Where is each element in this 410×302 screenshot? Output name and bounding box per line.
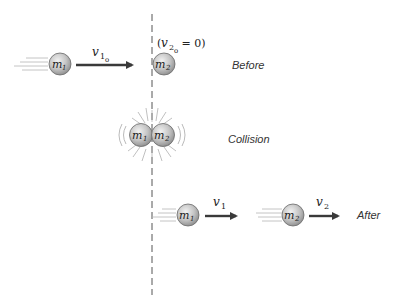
ball-m2-before: m 2 <box>153 53 175 75</box>
mass-subscript: 1 <box>62 64 66 72</box>
initial-condition-label: ( v 2 o = 0) <box>157 36 206 55</box>
ball-m1-collision: m 1 <box>130 124 153 147</box>
mass-subscript: 1 <box>190 215 194 223</box>
mass-subscript: 2 <box>165 64 171 72</box>
svg-text:= 0): = 0) <box>178 37 206 50</box>
svg-text:v: v <box>213 195 220 209</box>
mass-label: m <box>154 129 164 142</box>
stage-collision: m 1 m 2 Collision <box>119 108 270 162</box>
mass-subscript: 2 <box>164 135 170 143</box>
velocity-label-v1o: v 1 o <box>92 45 109 64</box>
mass-label: m <box>179 209 189 222</box>
motion-lines-icon <box>14 58 48 70</box>
svg-text:o: o <box>105 56 109 64</box>
mass-label: m <box>52 58 62 71</box>
ball-m2-collision: m 2 <box>152 124 175 147</box>
motion-lines-icon <box>152 209 176 221</box>
svg-text:1: 1 <box>221 202 226 211</box>
stage-after: m 1 v 1 m 2 v 2 After <box>152 195 382 226</box>
collision-diagram: m 1 v 1 o m 2 ( v 2 o = 0) Before <box>0 0 410 302</box>
velocity-label-v2: v 2 <box>316 195 329 211</box>
velocity-label-v1: v 1 <box>213 195 226 211</box>
mass-label: m <box>155 58 165 71</box>
stage-before: m 1 v 1 o m 2 ( v 2 o = 0) Before <box>14 36 264 75</box>
ball-m1-before: m 1 <box>49 53 71 75</box>
svg-text:2: 2 <box>324 202 329 211</box>
motion-lines-icon <box>256 209 282 221</box>
svg-text:v: v <box>316 195 323 209</box>
mass-subscript: 1 <box>143 135 147 143</box>
mass-label: m <box>284 209 294 222</box>
svg-text:v: v <box>92 45 99 59</box>
svg-text:v: v <box>161 36 168 50</box>
ball-m2-after: m 2 <box>282 204 304 226</box>
mass-subscript: 2 <box>294 215 300 223</box>
stage-label-after: After <box>356 209 382 221</box>
mass-label: m <box>132 129 142 142</box>
ball-m1-after: m 1 <box>177 204 199 226</box>
stage-label-before: Before <box>232 59 264 71</box>
stage-label-collision: Collision <box>228 133 270 145</box>
